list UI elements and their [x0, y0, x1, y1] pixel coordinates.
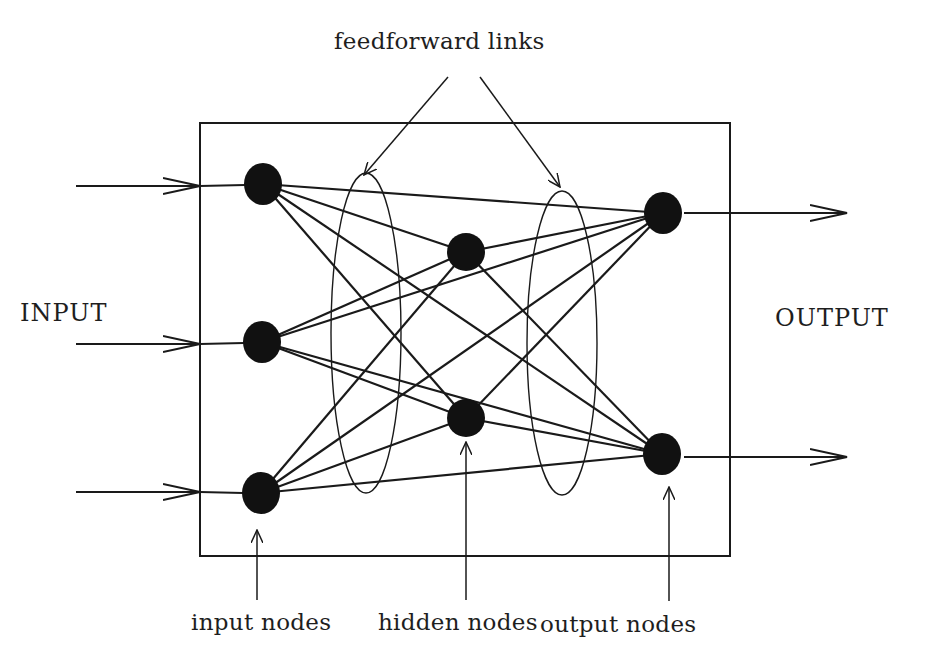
input-nodes: [242, 163, 282, 514]
node-pointer-arrows: [257, 442, 669, 601]
input-node-3: [242, 472, 280, 514]
pointer-arrow-right-ellipse: [480, 77, 560, 187]
input-nodes-label: input nodes: [191, 609, 331, 635]
link-i2-o2: [262, 342, 662, 454]
link-i2-h2: [262, 342, 466, 418]
feedforward-pointer-arrows: [364, 77, 560, 187]
hidden-node-2: [447, 399, 485, 437]
output-nodes: [643, 192, 682, 475]
link-i3-o2: [261, 454, 662, 493]
hidden-node-1: [447, 233, 485, 271]
input-node-1: [244, 163, 282, 205]
output-node-2: [643, 433, 681, 475]
link-i2-o1: [262, 213, 663, 342]
output-node-1: [644, 192, 682, 234]
pointer-arrow-left-ellipse: [364, 77, 448, 175]
neural-network-diagram: [0, 0, 952, 672]
output-label: OUTPUT: [775, 304, 889, 332]
input-signal-arrows: [76, 185, 245, 493]
output-nodes-label: output nodes: [540, 611, 696, 637]
output-signal-arrows: [684, 213, 847, 457]
input-node-2: [243, 321, 281, 363]
link-i2-h1: [262, 252, 466, 342]
feedforward-links-label: feedforward links: [334, 28, 545, 54]
network-connections: [261, 184, 663, 493]
link-i1-o1: [263, 184, 663, 213]
input-label: INPUT: [20, 299, 107, 327]
hidden-nodes: [447, 233, 485, 437]
hidden-nodes-label: hidden nodes: [378, 609, 538, 635]
